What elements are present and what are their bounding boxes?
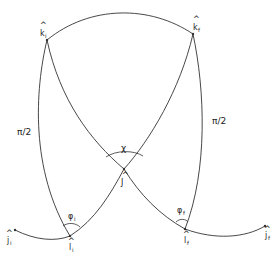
- label-j-i: j: [6, 236, 9, 245]
- label-angle-phi-f: φ: [177, 206, 182, 215]
- label-j-f-sub: f: [268, 235, 271, 241]
- arc-ki-J: [47, 40, 124, 169]
- arc-J-li: [70, 169, 124, 236]
- label-angle-phi-i: φ: [68, 212, 73, 221]
- arc-ki-li: [38, 40, 70, 236]
- label-l-f: l: [184, 236, 186, 245]
- label-k-f-sub: f: [198, 27, 201, 33]
- label-angle-phi-i-sub: i: [74, 216, 76, 222]
- label-angle-chi: χ: [121, 143, 126, 153]
- label-j-i-sub: i: [10, 240, 12, 246]
- arc-lf-jf: [185, 226, 265, 236]
- arc-J-lf: [124, 169, 185, 229]
- arc-kf-J: [124, 34, 193, 169]
- angle-phi-f-arc: [176, 219, 188, 222]
- arc-kf-lf: [185, 34, 202, 229]
- label-k-i-sub: i: [45, 33, 47, 39]
- point-k-f: [192, 33, 194, 35]
- arc-ji-li: [15, 230, 70, 239]
- label-right-side-pi-half: π/2: [212, 116, 226, 126]
- point-j-i: [14, 229, 16, 231]
- angle-phi-i-arc: [63, 223, 80, 227]
- arc-ki-kf: [47, 13, 193, 40]
- label-l-f-sub: f: [187, 240, 190, 246]
- point-J: [123, 168, 125, 170]
- label-l-i: l: [69, 243, 71, 252]
- label-l-i-sub: i: [72, 247, 74, 253]
- label-J: J: [120, 178, 123, 187]
- label-left-side-pi-half: π/2: [17, 127, 31, 137]
- diagram-svg: ^ k i ^ k f ^ J ^ l i ^ l f ^ j i ^ j f …: [0, 0, 279, 258]
- label-j-f: j: [264, 231, 267, 240]
- spherical-geometry-diagram: ^ k i ^ k f ^ J ^ l i ^ l f ^ j i ^ j f …: [0, 0, 279, 258]
- point-k-i: [46, 39, 48, 41]
- label-angle-phi-f-sub: f: [183, 210, 186, 216]
